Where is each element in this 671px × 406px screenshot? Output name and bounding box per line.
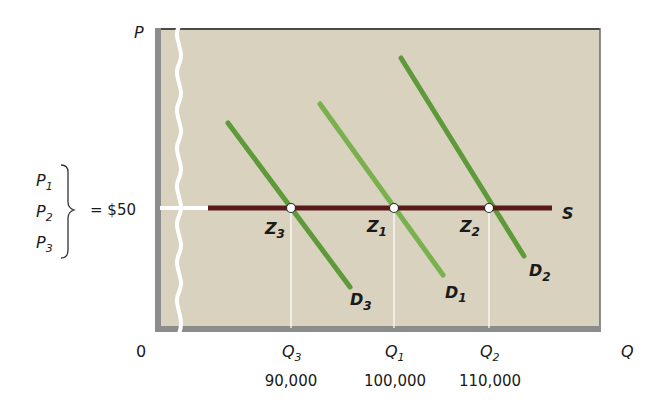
p1-label: P1 [36, 171, 53, 193]
q2-tick-label: Q2 [480, 342, 500, 364]
supply-label: S [562, 204, 574, 223]
p2-label: P2 [36, 202, 53, 224]
q1-value-label: 100,000 [364, 372, 426, 390]
x-axis [155, 326, 601, 332]
q3-value-label: 90,000 [265, 372, 318, 390]
origin-label: 0 [136, 342, 146, 361]
y-axis [155, 28, 161, 332]
plot-area [155, 28, 600, 330]
price-value-label: = $50 [90, 201, 136, 219]
x-axis-label: Q [621, 342, 634, 361]
point-z1 [390, 204, 399, 213]
brace-icon [61, 165, 74, 258]
q2-value-label: 110,000 [459, 372, 521, 390]
y-axis-label: P [134, 23, 144, 42]
chart: P Q 0 P1 P2 P3 = $50 S Z3 Z1 Z2 D3 D1 D2… [0, 0, 671, 406]
p3-label: P3 [36, 233, 53, 255]
q3-tick-label: Q3 [282, 342, 302, 364]
price-labels: P1 P2 P3 = $50 [36, 165, 136, 258]
point-z3 [287, 204, 296, 213]
point-z2 [485, 204, 494, 213]
q1-tick-label: Q1 [385, 342, 405, 364]
